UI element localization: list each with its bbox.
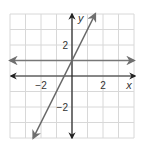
x-axis-label: x xyxy=(125,79,132,91)
tick-labels: −222−2xy xyxy=(35,12,132,113)
y-tick-label: 2 xyxy=(62,40,68,51)
axes xyxy=(11,14,135,138)
x-tick-label: 2 xyxy=(100,80,106,91)
x-tick-label: −2 xyxy=(35,80,47,91)
coordinate-plane: −222−2xy xyxy=(0,0,143,149)
y-tick-label: −2 xyxy=(57,102,69,113)
